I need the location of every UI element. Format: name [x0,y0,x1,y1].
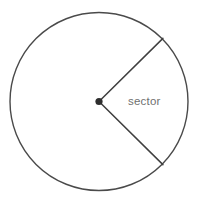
center-point-dot [95,98,102,105]
sector-label: sector [128,95,161,107]
diagram-canvas: sector [0,0,198,203]
lower-radius-line [99,102,163,165]
circle-sector-diagram: sector [0,0,198,203]
upper-radius-line [99,38,163,101]
